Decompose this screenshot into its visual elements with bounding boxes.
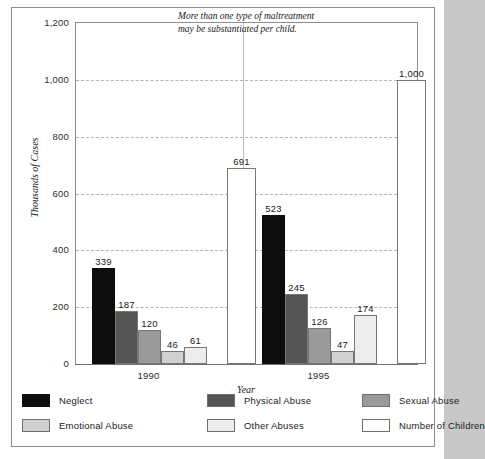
- legend-label: Sexual Abuse: [399, 395, 460, 406]
- legend-swatch: [22, 419, 50, 432]
- legend-swatch: [207, 394, 235, 407]
- legend-swatch: [362, 419, 390, 432]
- bar: 187: [115, 311, 138, 364]
- bar: 174: [354, 315, 377, 364]
- legend-item[interactable]: Other Abuses: [207, 417, 304, 433]
- bar: 120: [138, 330, 161, 364]
- bar: 691: [227, 168, 256, 364]
- legend-swatch: [362, 394, 390, 407]
- bar-value-label: 61: [190, 335, 201, 346]
- legend-swatch: [207, 419, 235, 432]
- y-axis-title: Thousands of Cases: [29, 98, 40, 258]
- legend-item[interactable]: Neglect: [22, 392, 93, 408]
- legend-label: Other Abuses: [244, 420, 304, 431]
- bar: 47: [331, 351, 354, 364]
- legend-swatch: [22, 394, 50, 407]
- legend-label: Physical Abuse: [244, 395, 311, 406]
- legend-label: Emotional Abuse: [59, 420, 133, 431]
- bar: 523: [262, 215, 285, 364]
- y-tick-label: 1,200: [9, 17, 69, 28]
- chart-legend: NeglectPhysical AbuseSexual AbuseEmotion…: [22, 392, 422, 440]
- legend-label: Number of Children: [399, 420, 485, 431]
- bar-value-label: 339: [95, 256, 111, 267]
- gridline: [76, 80, 417, 81]
- plot-area: 3391871204661691523245126471741,000: [75, 22, 418, 365]
- bar: 1,000: [397, 80, 426, 364]
- legend-item[interactable]: Number of Children: [362, 417, 485, 433]
- x-group-label: 1995: [308, 370, 330, 381]
- bar-value-label: 47: [337, 339, 348, 350]
- annotation-line-2: may be substantiated per child.: [178, 23, 338, 36]
- bar: 46: [161, 351, 184, 364]
- bar-value-label: 691: [233, 156, 249, 167]
- gridline: [76, 137, 417, 138]
- legend-item[interactable]: Emotional Abuse: [22, 417, 133, 433]
- annotation-note: More than one type of maltreatment may b…: [178, 10, 338, 36]
- legend-item[interactable]: Physical Abuse: [207, 392, 311, 408]
- bar-value-label: 523: [265, 203, 281, 214]
- bar-value-label: 245: [288, 282, 304, 293]
- bar-value-label: 1,000: [399, 68, 424, 79]
- bar-value-label: 126: [311, 316, 327, 327]
- annotation-line-1: More than one type of maltreatment: [178, 10, 338, 23]
- bar-value-label: 187: [118, 299, 134, 310]
- bar-value-label: 120: [141, 318, 157, 329]
- bar: 245: [285, 294, 308, 364]
- legend-item[interactable]: Sexual Abuse: [362, 392, 460, 408]
- bar: 126: [308, 328, 331, 364]
- bar-value-label: 174: [357, 303, 373, 314]
- x-group-label: 1990: [138, 370, 160, 381]
- legend-label: Neglect: [59, 395, 93, 406]
- y-tick-label: 0: [9, 358, 69, 369]
- y-tick-label: 200: [9, 301, 69, 312]
- bar-value-label: 46: [167, 339, 178, 350]
- bar: 339: [92, 268, 115, 364]
- bar: 61: [184, 347, 207, 364]
- y-tick-label: 1,000: [9, 73, 69, 84]
